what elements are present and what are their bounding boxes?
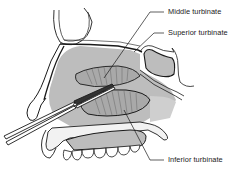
label-inferior-turbinate: Inferior turbinate — [168, 156, 223, 163]
nasal-cavity-diagram: Middle turbinate Superior turbinate Infe… — [0, 0, 233, 169]
label-middle-turbinate: Middle turbinate — [168, 8, 221, 15]
soft-palate-shading — [150, 96, 176, 122]
sphenoid-sinus — [144, 50, 175, 77]
frontal-bone-inner — [59, 10, 89, 41]
label-superior-turbinate: Superior turbinate — [168, 29, 228, 36]
anatomy-illustration — [0, 0, 233, 169]
